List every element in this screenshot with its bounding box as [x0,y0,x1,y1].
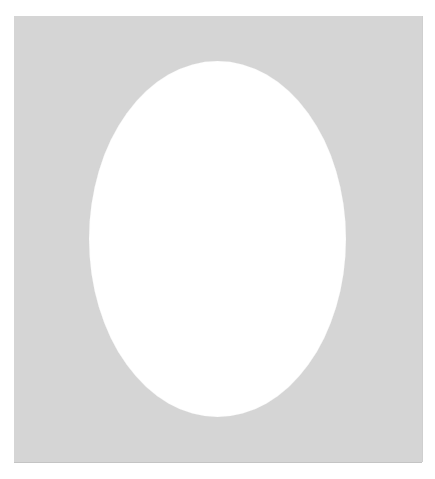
frame-mat [14,16,422,462]
oval-opening [89,61,346,417]
